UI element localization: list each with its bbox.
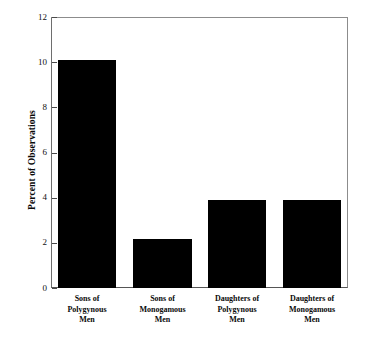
x-category-label-line: Men xyxy=(267,315,357,326)
bar xyxy=(133,239,192,288)
y-tick-label: 2 xyxy=(21,238,47,247)
x-category-label-line: Daughters of xyxy=(267,294,357,305)
x-category-label-line: Monogamous xyxy=(267,305,357,316)
y-tick-label: 12 xyxy=(21,13,47,22)
y-tick-label: 8 xyxy=(21,103,47,112)
y-tick-label: 4 xyxy=(21,193,47,202)
y-tick-mark xyxy=(52,288,57,289)
y-tick-label: 6 xyxy=(21,148,47,157)
bar-chart: Percent of Observations 024681012 Sons o… xyxy=(0,0,365,340)
x-category-label: Daughters ofMonogamousMen xyxy=(267,294,357,326)
y-tick-label: 0 xyxy=(21,284,47,293)
bars-layer xyxy=(51,17,348,288)
y-tick-label: 10 xyxy=(21,58,47,67)
bar xyxy=(208,200,266,288)
bar xyxy=(283,200,341,288)
bar xyxy=(58,60,116,288)
